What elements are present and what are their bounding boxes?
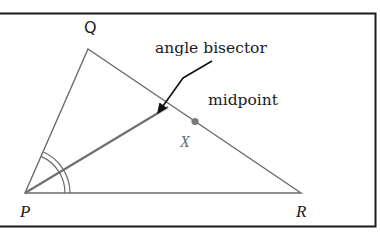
angle-arc-outer bbox=[43, 152, 70, 193]
triangle-diagram bbox=[0, 0, 380, 237]
diagram-frame: Q P R X angle bisector midpoint bbox=[0, 0, 380, 237]
point-label-x: X bbox=[180, 134, 190, 150]
angle-bisector-label: angle bisector bbox=[155, 41, 267, 57]
vertex-label-r: R bbox=[296, 203, 306, 220]
arrowhead-icon bbox=[157, 103, 167, 115]
angle-bisector-line bbox=[25, 107, 168, 193]
angle-bisector-arrow-shaft bbox=[163, 61, 212, 106]
vertex-label-q: Q bbox=[84, 20, 97, 36]
angle-arc-inner bbox=[41, 156, 65, 193]
vertex-label-p: P bbox=[20, 203, 30, 220]
triangle-pqr bbox=[25, 49, 301, 193]
midpoint-label: midpoint bbox=[208, 93, 278, 109]
midpoint-dot bbox=[191, 118, 198, 125]
